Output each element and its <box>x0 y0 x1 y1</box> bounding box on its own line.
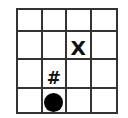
player-circle-icon <box>44 93 63 112</box>
cell-1-1[interactable] <box>43 32 68 60</box>
game-board: X # <box>16 8 118 114</box>
cell-2-2[interactable] <box>67 60 92 89</box>
cell-0-0[interactable] <box>18 10 43 32</box>
cell-0-3[interactable] <box>92 10 117 32</box>
cell-3-2[interactable] <box>67 89 92 112</box>
cell-0-1[interactable] <box>43 10 68 32</box>
cell-3-1[interactable] <box>43 89 68 112</box>
cell-2-3[interactable] <box>92 60 117 89</box>
cell-2-1[interactable]: # <box>43 60 68 89</box>
cell-3-3[interactable] <box>92 89 117 112</box>
hash-mark-icon: # <box>47 70 61 87</box>
cell-1-0[interactable] <box>18 32 43 60</box>
x-mark-icon: X <box>71 38 86 58</box>
cell-0-2[interactable] <box>67 10 92 32</box>
cell-1-3[interactable] <box>92 32 117 60</box>
cell-2-0[interactable] <box>18 60 43 89</box>
cell-1-2[interactable]: X <box>67 32 92 60</box>
cell-3-0[interactable] <box>18 89 43 112</box>
